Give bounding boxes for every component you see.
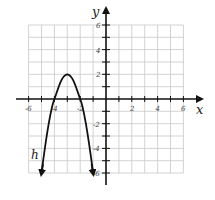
- function-label-h: h: [31, 148, 39, 162]
- y-tick-labels: 6 4 2 -2 -4 -6: [93, 22, 101, 178]
- y-tick-label: -2: [93, 121, 100, 129]
- x-tick-label: 4: [155, 105, 160, 113]
- y-axis-label: y: [91, 4, 100, 19]
- y-tick-label: 2: [95, 71, 101, 79]
- x-tick-label: 2: [129, 105, 135, 113]
- coordinate-plane: -6 -4 -2 2 4 6 6 4 2 -2 -4 -6 y x h: [0, 0, 215, 200]
- y-tick-label: -4: [93, 145, 100, 153]
- y-tick-label: -6: [93, 170, 100, 178]
- x-tick-label: -6: [25, 105, 32, 113]
- x-axis-label: x: [196, 102, 204, 117]
- y-tick-label: 6: [96, 22, 101, 30]
- y-tick-label: 4: [95, 47, 100, 55]
- x-tick-label: 6: [181, 105, 186, 113]
